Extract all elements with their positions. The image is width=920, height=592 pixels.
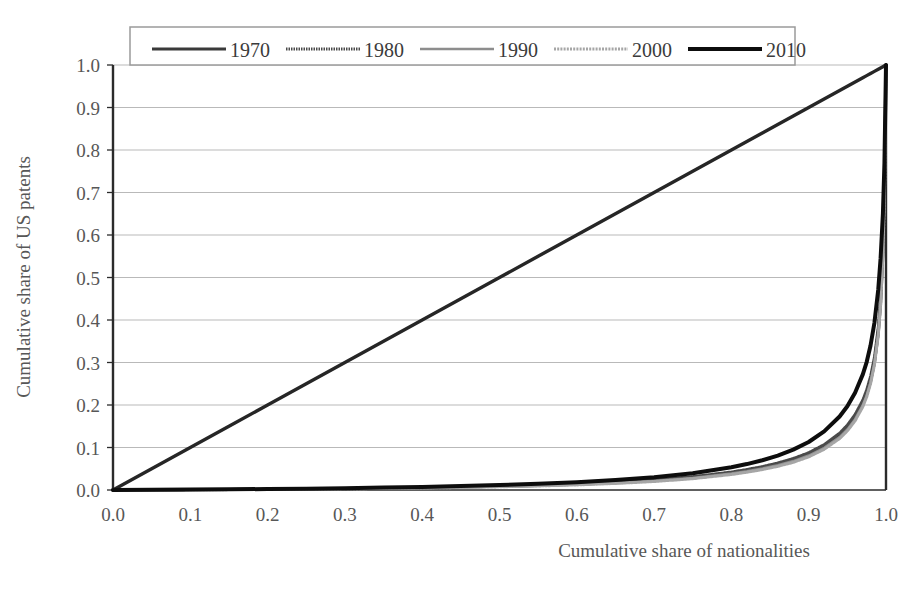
x-tick-label-0.6: 0.6 [565,504,589,525]
y-tick-label-0.0: 0.0 [76,480,100,501]
x-tick-label-0.8: 0.8 [720,504,744,525]
legend-label-1970: 1970 [230,39,270,61]
x-tick-label-0.7: 0.7 [642,504,666,525]
y-tick-label-0.3: 0.3 [76,353,100,374]
lorenz-curve-chart: 0.00.10.20.30.40.50.60.70.80.91.0 0.00.1… [0,0,920,592]
legend-label-2000: 2000 [632,39,672,61]
x-axis-title: Cumulative share of nationalities [558,540,810,561]
x-tick-label-0.5: 0.5 [488,504,512,525]
y-tick-label-0.1: 0.1 [76,438,100,459]
y-tick-label-0.6: 0.6 [76,225,100,246]
x-tick-label-0.1: 0.1 [178,504,202,525]
y-tick-label-1.0: 1.0 [76,55,100,76]
legend-label-1980: 1980 [364,39,404,61]
chart-background [0,0,920,592]
x-tick-label-0.9: 0.9 [797,504,821,525]
y-tick-label-0.5: 0.5 [76,268,100,289]
legend-label-1990: 1990 [498,39,538,61]
y-tick-label-0.4: 0.4 [76,310,100,331]
chart-canvas: 0.00.10.20.30.40.50.60.70.80.91.0 0.00.1… [0,0,920,592]
y-tick-label-0.9: 0.9 [76,98,100,119]
legend-label-2010: 2010 [766,39,806,61]
x-tick-label-0.4: 0.4 [410,504,434,525]
x-tick-label-0.3: 0.3 [333,504,357,525]
y-axis-title: Cumulative share of US patents [13,156,34,398]
chart-legend[interactable]: 19701980199020002010 [130,27,806,65]
y-tick-label-0.8: 0.8 [76,140,100,161]
y-tick-label-0.7: 0.7 [76,183,100,204]
x-tick-label-1.0: 1.0 [874,504,898,525]
x-tick-label-0.2: 0.2 [256,504,280,525]
y-tick-label-0.2: 0.2 [76,395,100,416]
x-tick-label-0.0: 0.0 [101,504,125,525]
